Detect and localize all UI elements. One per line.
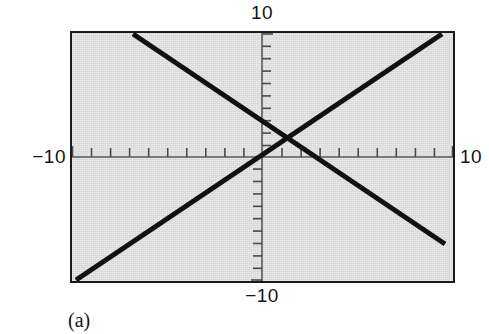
figure-a: −10 10 10 −10 (a): [0, 0, 489, 334]
y-axis-min-label: −10: [212, 286, 312, 305]
y-axis-max-label: 10: [222, 3, 302, 22]
plot-frame: [70, 31, 455, 283]
plot-canvas: [72, 33, 453, 281]
figure-caption: (a): [68, 310, 90, 330]
x-axis-min-label: −10: [6, 147, 66, 166]
x-axis-max-label: 10: [460, 147, 482, 166]
